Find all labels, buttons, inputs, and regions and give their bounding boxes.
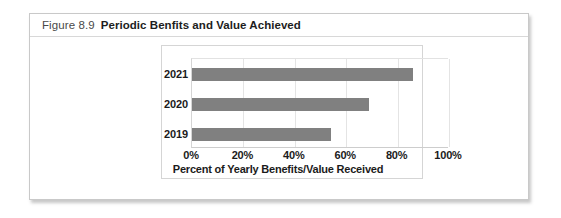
gridline: [449, 59, 450, 147]
bar-row: 2020: [192, 89, 369, 119]
bar-category-label: 2019: [164, 128, 188, 140]
figure-title: Periodic Benfits and Value Achieved: [101, 19, 301, 31]
x-axis-tick: 20%: [232, 149, 253, 161]
bar-row: 2021: [192, 59, 413, 89]
bar-category-label: 2021: [164, 68, 188, 80]
x-axis-tick: 0%: [183, 149, 199, 161]
x-axis-tick: 60%: [334, 149, 355, 161]
bar-category-label: 2020: [164, 98, 188, 110]
bar: [192, 128, 331, 141]
x-axis-tick: 40%: [283, 149, 304, 161]
figure-number: Figure 8.9: [42, 19, 95, 31]
figure-caption: Figure 8.9 Periodic Benfits and Value Ac…: [30, 14, 528, 37]
bar-chart: 201920202021 0%20%40%60%80%100% Percent …: [133, 45, 423, 179]
bar-row: 2019: [192, 119, 331, 149]
bar: [192, 68, 413, 81]
x-axis-tick: 100%: [434, 149, 461, 161]
bar: [192, 98, 369, 111]
x-axis-tick: 80%: [386, 149, 407, 161]
plot-region: 201920202021: [191, 58, 448, 148]
figure-card: Figure 8.9 Periodic Benfits and Value Ac…: [29, 13, 529, 200]
x-axis-tick-labels: 0%20%40%60%80%100%: [191, 149, 448, 164]
x-axis-title: Percent of Yearly Benefits/Value Receive…: [133, 163, 423, 175]
